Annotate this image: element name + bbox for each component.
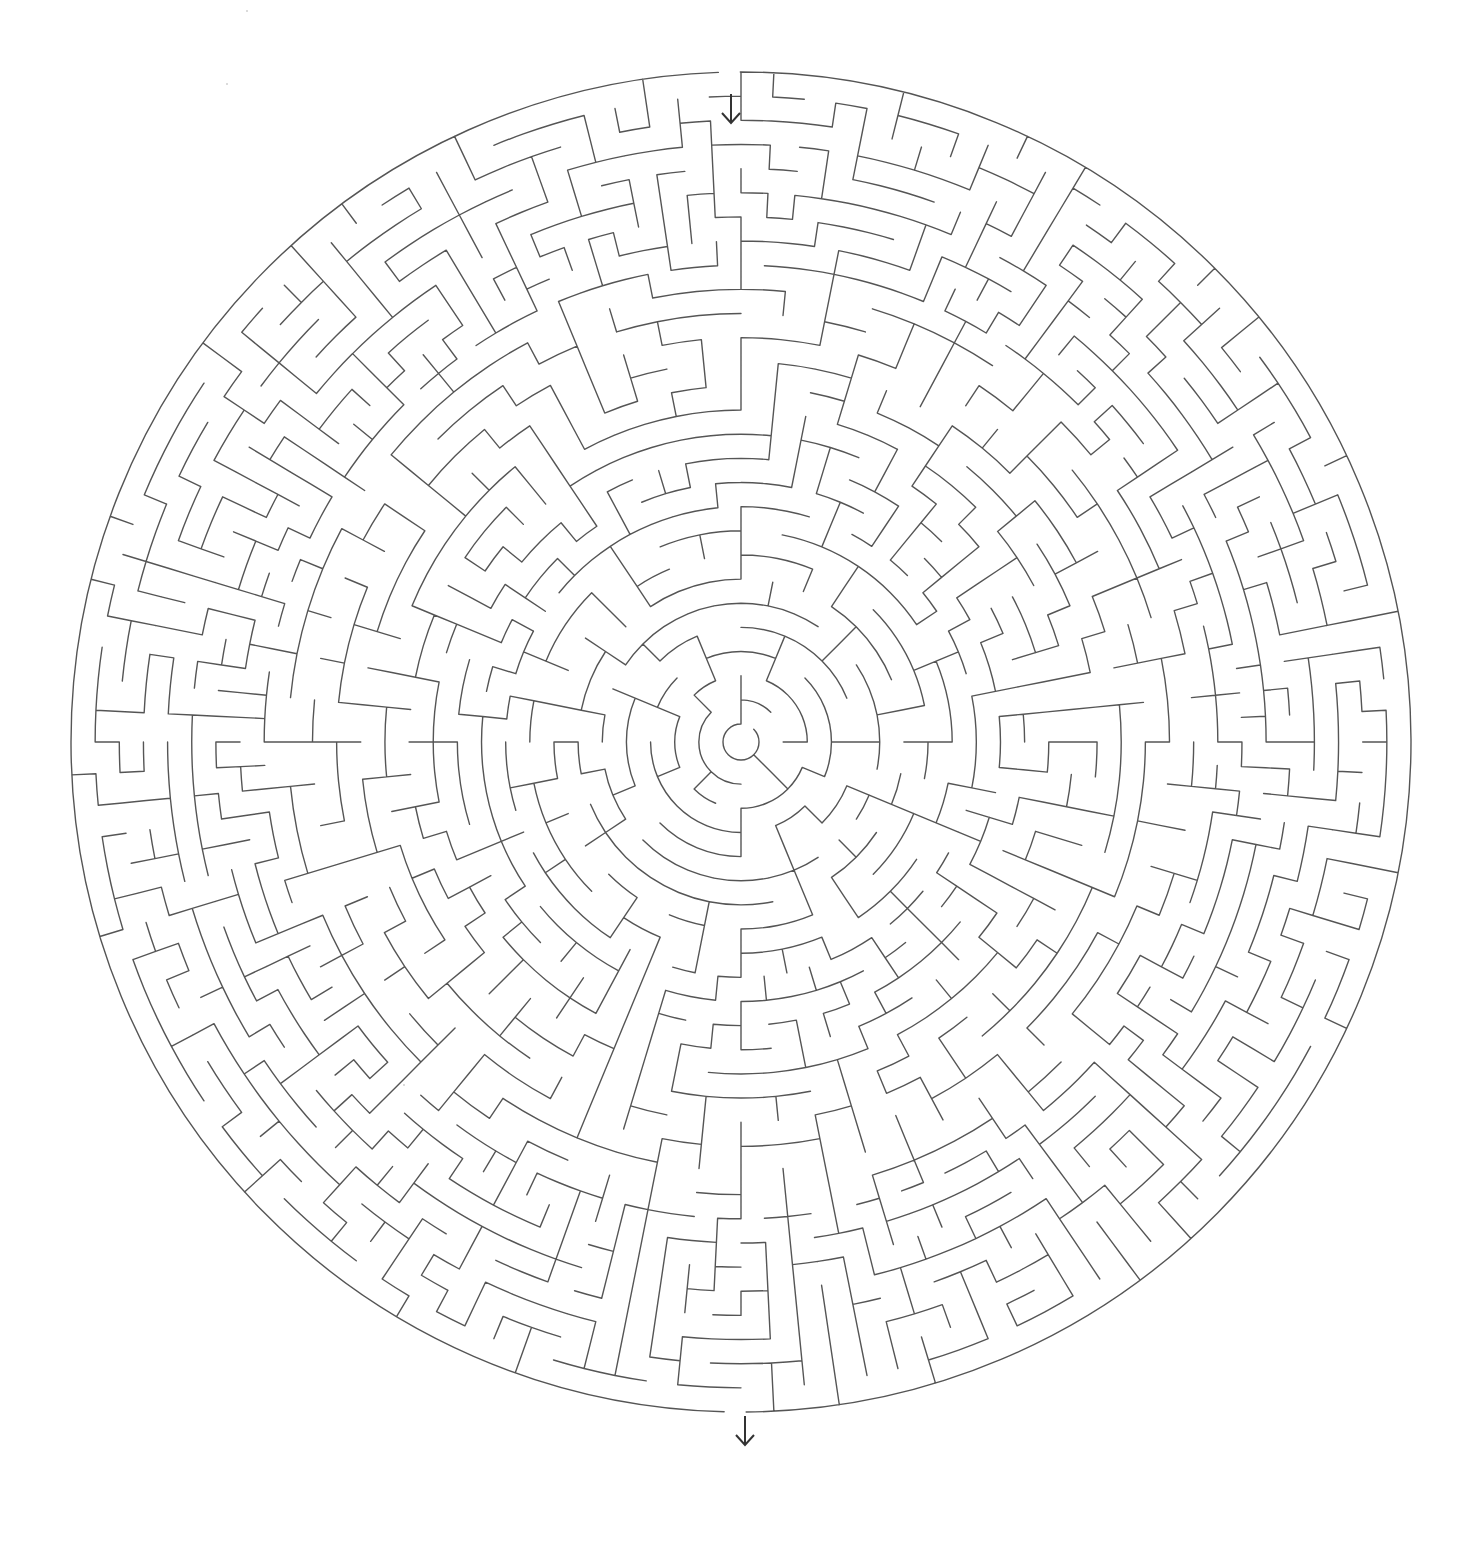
paper-speck bbox=[226, 83, 228, 85]
entrance-arrow-icon bbox=[719, 92, 743, 126]
maze-walls bbox=[71, 72, 1411, 1412]
paper-speck bbox=[246, 10, 248, 12]
exit-arrow-icon bbox=[733, 1414, 757, 1448]
maze-wall-paths bbox=[71, 72, 1411, 1412]
paper-speck bbox=[403, 1084, 405, 1086]
maze-board bbox=[0, 0, 1483, 1553]
